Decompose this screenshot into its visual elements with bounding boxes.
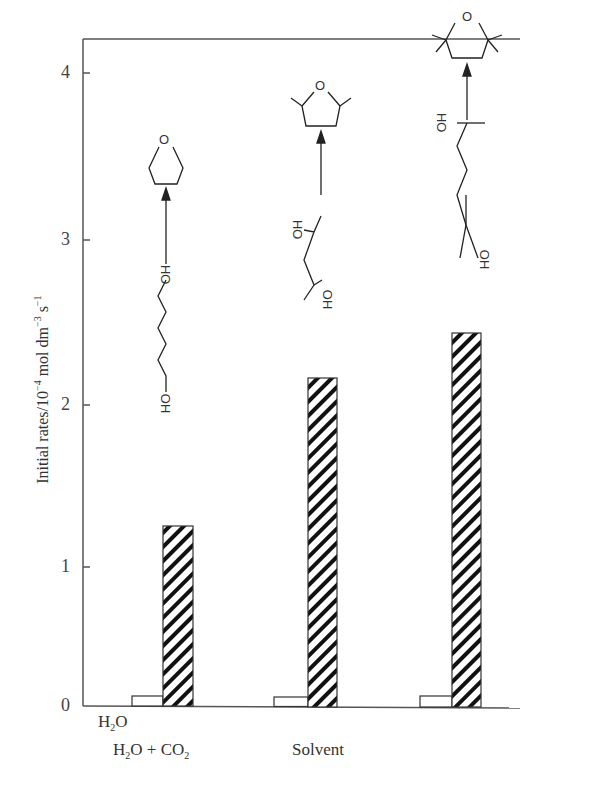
y-label-text: s xyxy=(34,306,51,316)
mol3-oh: OH xyxy=(434,113,449,133)
mol2-o: O xyxy=(315,78,325,93)
y-tick-4: 4 xyxy=(50,62,70,83)
x-axis-label: Solvent xyxy=(292,740,344,760)
mol1-ho: HO xyxy=(158,394,173,414)
legend-h2o: H2O xyxy=(98,712,128,733)
y-tick-1: 1 xyxy=(50,556,70,577)
molecule-dimethyl-thf-icon xyxy=(291,92,351,300)
mol2-oh: OH xyxy=(290,220,305,240)
mol3-ho: HO xyxy=(477,250,492,270)
molecule-tetramethyl-thf-icon xyxy=(432,23,502,258)
y-axis-label: Initial rates/10−4 mol dm−3 s−1 xyxy=(32,230,51,550)
y-label-exp: −3 xyxy=(32,316,43,327)
y-tick-3: 3 xyxy=(50,229,70,250)
y-label-text: mol dm xyxy=(34,327,51,380)
chart-canvas xyxy=(0,0,601,802)
mol1-o: O xyxy=(159,132,169,147)
bar-h2o-co2-2 xyxy=(308,378,337,707)
bar-h2o-2 xyxy=(274,697,308,707)
y-tick-2: 2 xyxy=(50,394,70,415)
y-label-exp: −1 xyxy=(32,295,43,306)
y-label-text: Initial rates/10 xyxy=(34,391,51,484)
legend-h2o-co2: H2O + CO2 xyxy=(113,740,189,761)
mol3-o: O xyxy=(462,9,472,24)
bar-h2o-co2-1 xyxy=(163,526,193,706)
bars xyxy=(132,333,481,707)
y-tick-0: 0 xyxy=(50,695,70,716)
bar-h2o-1 xyxy=(132,696,163,706)
y-ticks xyxy=(83,73,90,567)
mol1-oh: OH xyxy=(158,265,173,285)
bar-h2o-3 xyxy=(420,696,452,707)
y-label-exp: −4 xyxy=(32,380,43,391)
bar-h2o-co2-3 xyxy=(452,333,481,707)
mol2-ho: HO xyxy=(320,290,335,310)
